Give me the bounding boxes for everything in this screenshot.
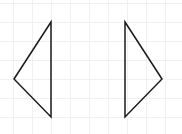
- diagram-svg: [0, 0, 182, 134]
- right-pointing-triangle: [125, 22, 162, 117]
- diagram-canvas: [0, 0, 182, 134]
